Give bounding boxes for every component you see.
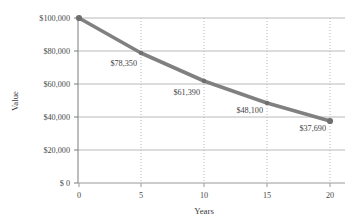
data-label-year-5: $78,350: [110, 59, 137, 68]
y-axis-ticks: [74, 18, 78, 183]
data-point-year-10: [202, 79, 206, 83]
ytick-label-40000: $40,000: [43, 113, 70, 122]
data-label-year-15: $48,100: [236, 106, 263, 115]
xtick-label-0: 0: [77, 191, 81, 200]
ytick-label-100000: $100,000: [39, 14, 70, 23]
ytick-label-0: $ 0: [60, 179, 70, 188]
data-point-year-15: [265, 101, 269, 105]
xtick-label-20: 20: [326, 191, 334, 200]
y-axis-title: Value: [10, 91, 20, 111]
data-point-year-5: [139, 51, 143, 55]
xtick-label-15: 15: [263, 191, 271, 200]
chart-canvas: $100,000 $80,000 $60,000 $40,000 $20,000…: [0, 0, 353, 223]
data-label-year-20: $37,690: [299, 124, 326, 133]
x-axis-title: Years: [194, 206, 214, 216]
depreciation-line-chart: $100,000 $80,000 $60,000 $40,000 $20,000…: [0, 0, 353, 223]
data-point-year-20: [327, 118, 333, 124]
data-point-year-0: [76, 15, 82, 21]
ytick-label-20000: $20,000: [43, 146, 70, 155]
x-axis-ticks: [79, 183, 330, 187]
ytick-label-60000: $60,000: [43, 80, 70, 89]
plot-area-background: [78, 18, 345, 183]
data-label-year-10: $61,390: [173, 88, 200, 97]
xtick-label-5: 5: [139, 191, 143, 200]
ytick-label-80000: $80,000: [43, 47, 70, 56]
xtick-label-10: 10: [200, 191, 208, 200]
